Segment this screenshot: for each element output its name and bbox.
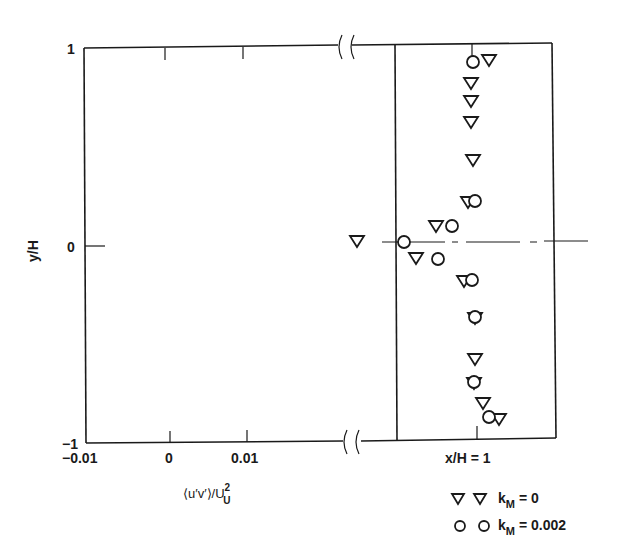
top-frame-right: [352, 43, 552, 45]
legend-circle-icon: [455, 521, 465, 531]
legend-label-kM-0: kM= 0: [498, 490, 539, 510]
triangle-marker: [482, 55, 496, 66]
legend-triangle-icon: [452, 494, 464, 504]
legend-triangle-icon: [474, 494, 486, 504]
legend-entry-kM-0: kM= 0: [452, 490, 539, 510]
legend-label-kM-0.002: kM= 0.002: [498, 517, 566, 537]
triangle-marker: [350, 236, 364, 247]
y-tick-label-1: 1: [67, 41, 75, 57]
triangle-marker: [466, 155, 480, 166]
station-bottom-edge: [361, 438, 556, 441]
circle-marker: [469, 195, 481, 207]
x-tick-label-0.01: 0.01: [231, 450, 258, 466]
x-tick-label-minus0.01: −0.01: [62, 450, 98, 466]
series-kM-0: [350, 55, 506, 425]
circle-marker: [466, 274, 478, 286]
circle-marker: [446, 220, 458, 232]
triangle-marker: [409, 253, 423, 264]
triangle-marker: [429, 221, 443, 232]
x-axis-label: ⟨u′v′⟩/U2U: [183, 482, 231, 506]
axis-break-top: [339, 35, 354, 59]
station-label: x/H = 1: [445, 450, 491, 466]
left-axes-panel: [84, 45, 343, 443]
circle-marker: [467, 56, 479, 68]
circle-marker: [469, 311, 481, 323]
circle-marker: [398, 236, 410, 248]
triangle-marker: [464, 78, 478, 89]
triangle-marker: [468, 354, 482, 365]
x-tick-label-0: 0: [165, 450, 173, 466]
circle-marker: [432, 253, 444, 265]
series-kM-0.002: [398, 56, 495, 423]
triangle-marker: [464, 117, 478, 128]
y-tick-label-0: 0: [67, 239, 75, 255]
x-axis-line: [86, 441, 343, 443]
axis-break-bottom: [344, 430, 359, 454]
triangle-marker: [464, 96, 478, 107]
circle-marker: [468, 376, 480, 388]
centerline: [382, 241, 588, 242]
circle-marker: [483, 411, 495, 423]
top-frame-left: [84, 45, 338, 48]
legend: kM= 0 kM= 0.002: [452, 490, 566, 537]
legend-circle-icon: [479, 521, 489, 531]
y-axis-label: y/H: [25, 240, 41, 262]
legend-entry-kM-0.002: kM= 0.002: [455, 517, 566, 537]
triangle-marker: [476, 398, 490, 409]
chart-canvas: 1 0 −1 y/H −0.01 0 0.01 ⟨u′v′⟩/U2U x/H =…: [0, 0, 619, 555]
